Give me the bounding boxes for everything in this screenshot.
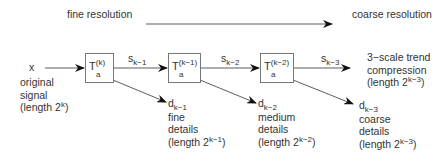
detail-label-3: dk−3: [359, 99, 417, 112]
detail-desc-3a: coarse: [359, 113, 417, 126]
input-description: original signal (length 2k): [20, 76, 68, 114]
transform-box-k: T(k) a: [85, 53, 114, 83]
smooth-label-3: sk−3: [321, 52, 339, 65]
detail-length-1: (length 2k−1): [168, 136, 226, 149]
detail-length-2: (length 2k−2): [258, 136, 316, 149]
output-line1: 3−scale trend: [367, 51, 430, 64]
transform-box-k-2: T(k−2) a: [260, 53, 294, 83]
detail-desc-1a: fine: [168, 111, 226, 124]
fine-resolution-label: fine resolution: [67, 8, 132, 21]
input-length: (length 2k): [20, 101, 68, 114]
transform-box-k-1: T(k−1) a: [168, 53, 201, 83]
detail-label-2: dk−2: [258, 97, 316, 110]
smooth-label-1: sk−1: [128, 52, 146, 65]
detail-desc-2a: medium: [258, 111, 316, 124]
coarse-resolution-label: coarse resolution: [352, 8, 432, 21]
input-desc-line1: original: [20, 76, 68, 89]
detail-block-2: dk−2 medium details (length 2k−2): [258, 97, 316, 148]
detail-length-3: (length 2k−3): [359, 138, 417, 151]
output-length: (length 2k−3): [367, 76, 430, 89]
output-description: 3−scale trend compression (length 2k−3): [367, 51, 430, 89]
detail-block-1: dk−1 fine details (length 2k−1): [168, 97, 226, 148]
detail-arrow-1: [113, 80, 166, 102]
smooth-label-2: sk−2: [221, 52, 239, 65]
detail-label-1: dk−1: [168, 97, 226, 110]
detail-block-3: dk−3 coarse details (length 2k−3): [359, 99, 417, 150]
input-symbol: x: [29, 61, 34, 74]
